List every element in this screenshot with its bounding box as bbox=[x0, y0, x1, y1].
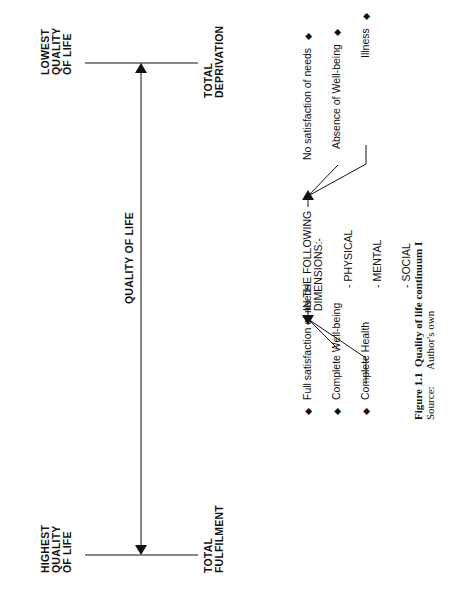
dimension-mental: - MENTAL bbox=[372, 240, 383, 288]
dimensions-heading: IN THE FOLLOWING DIMENSIONS:- bbox=[302, 211, 324, 311]
diamond-bullet-icon: ◆ bbox=[303, 33, 313, 40]
diamond-bullet-icon: ◆ bbox=[361, 13, 371, 20]
lowest-quality-label: LOWEST QUALITY OF LIFE bbox=[40, 28, 73, 75]
deprivation-line-2: DEPRIVATION bbox=[214, 26, 225, 98]
highest-line-3: OF LIFE bbox=[62, 525, 73, 573]
factor-text: Complete Health bbox=[359, 322, 371, 400]
negative-factor-no-satisfaction: No satisfaction of needs◆ bbox=[302, 33, 313, 160]
total-fulfilment-label: TOTAL FULFILMENT bbox=[203, 505, 225, 573]
positive-factor-complete-health: ◆Complete Health bbox=[360, 322, 371, 415]
figure-caption: Figure 1.1 Quality of life continuum I S… bbox=[413, 242, 436, 420]
source-value: Author's own bbox=[424, 311, 436, 370]
diamond-bullet-icon: ◆ bbox=[303, 408, 313, 415]
total-deprivation-label: TOTAL DEPRIVATION bbox=[203, 26, 225, 98]
arrowhead-high-icon bbox=[135, 545, 147, 555]
figure-number: Figure 1.1 bbox=[412, 373, 424, 420]
factor-text: No satisfaction of needs bbox=[301, 48, 313, 160]
fulfilment-line-2: FULFILMENT bbox=[214, 505, 225, 573]
factor-text: Illness bbox=[359, 28, 371, 58]
connector-illness bbox=[308, 145, 366, 196]
diamond-bullet-icon: ◆ bbox=[332, 29, 342, 36]
dimension-physical: - PHYSICAL bbox=[343, 230, 354, 288]
negative-factor-illness: Illness◆ bbox=[360, 13, 371, 58]
positive-factor-complete-wellbeing: ◆Complete Well-being bbox=[331, 303, 342, 415]
quality-of-life-axis-label: QUALITY OF LIFE bbox=[124, 212, 135, 304]
factor-text: Absence of Well-being bbox=[330, 44, 342, 149]
diamond-bullet-icon: ◆ bbox=[332, 408, 342, 415]
diagram-lines bbox=[0, 0, 467, 615]
highest-quality-label: HIGHEST QUALITY OF LIFE bbox=[40, 525, 73, 573]
diamond-bullet-icon: ◆ bbox=[361, 408, 371, 415]
figure-title: Quality of life continuum I bbox=[412, 242, 424, 367]
dimension-social: - SOCIAL bbox=[401, 243, 412, 288]
connector-absence-wellbeing bbox=[308, 165, 338, 196]
source-label: Source: bbox=[424, 386, 436, 420]
dimensions-heading-line-2: DIMENSIONS:- bbox=[313, 211, 324, 311]
lowest-line-3: OF LIFE bbox=[62, 28, 73, 75]
negative-factor-absence-wellbeing: Absence of Well-being◆ bbox=[331, 29, 342, 149]
factor-text: Complete Well-being bbox=[330, 303, 342, 400]
figure-stage: HIGHEST QUALITY OF LIFE TOTAL FULFILMENT… bbox=[0, 0, 467, 615]
arrowhead-low-icon bbox=[135, 63, 147, 73]
